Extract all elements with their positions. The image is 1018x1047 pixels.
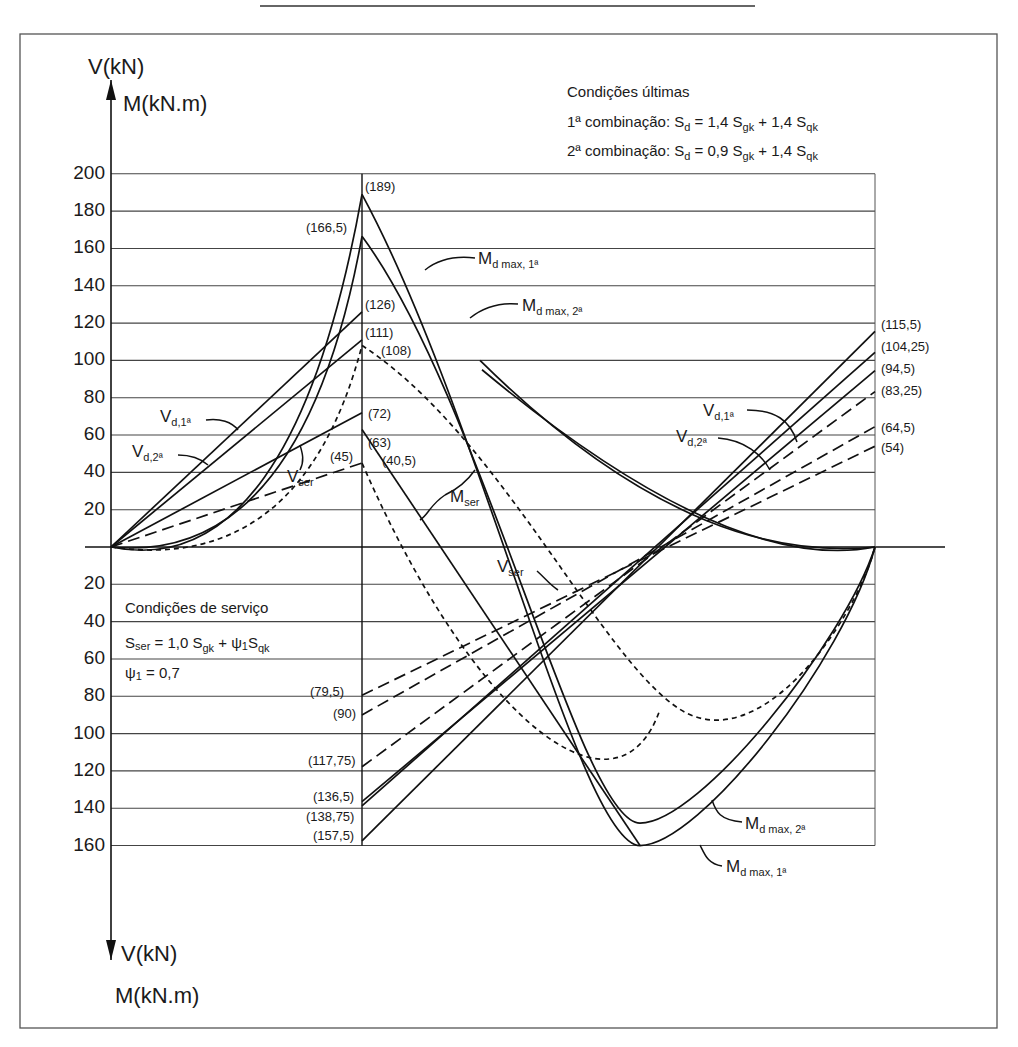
y-tick-neg-20: 20 [45, 573, 105, 592]
value-108: (108) [381, 344, 411, 357]
y-tick-pos-60: 60 [45, 424, 105, 443]
y-tick-neg-160: 160 [45, 835, 105, 854]
y-tick-neg-140: 140 [45, 797, 105, 816]
label-vser-right: Vser [497, 558, 524, 578]
y-tick-pos-120: 120 [45, 312, 105, 331]
y-axis-label-m-bottom: M(kN.m) [115, 985, 199, 1007]
value-111: (111) [365, 326, 393, 339]
value-136-5: (136,5) [313, 790, 354, 803]
value-63: (63) [368, 436, 391, 449]
label-md-max-1-bottom: Md max, 1ª [726, 858, 786, 878]
value-45: (45) [330, 450, 353, 463]
value-126: (126) [365, 298, 395, 311]
value-90: (90) [333, 707, 356, 720]
curves [111, 194, 875, 845]
value-117-75: (117,75) [308, 754, 355, 767]
combination-1-formula: 1ª combinação: Sd = 1,4 Sgk + 1,4 Sqk [567, 114, 818, 133]
value-54: (54) [881, 441, 904, 454]
chart-canvas [0, 0, 1018, 1047]
y-tick-pos-80: 80 [45, 387, 105, 406]
y-axis-label-m-top: M(kN.m) [123, 93, 207, 115]
value-104-25: (104,25) [881, 340, 929, 353]
y-axis-label-v-bottom: V(kN) [121, 943, 177, 965]
label-md-max-2-bottom: Md max, 2ª [745, 815, 805, 835]
ultimate-conditions-title: Condições últimas [567, 84, 690, 99]
label-vd2-right: Vd,2ª [676, 428, 707, 448]
label-md-max-2-top: Md max, 2ª [522, 297, 582, 317]
value-72: (72) [368, 407, 391, 420]
label-vd1-left: Vd,1ª [160, 408, 191, 428]
service-conditions-title: Condições de serviço [125, 600, 268, 615]
y-axis-label-v-top: V(kN) [88, 56, 144, 78]
value-94-5: (94,5) [881, 362, 915, 375]
service-formula: Sser = 1,0 Sgk + ψ1Sqk [125, 635, 270, 654]
y-tick-neg-40: 40 [45, 611, 105, 630]
psi-value: ψ1 = 0,7 [125, 665, 180, 682]
y-tick-neg-120: 120 [45, 760, 105, 779]
y-tick-pos-160: 160 [45, 237, 105, 256]
y-tick-neg-60: 60 [45, 648, 105, 667]
value-83-25: (83,25) [881, 384, 922, 397]
combination-2-formula: 2ª combinação: Sd = 0,9 Sgk + 1,4 Sqk [567, 143, 818, 162]
value-166-5: (166,5) [306, 221, 347, 234]
label-vd2-left: Vd,2ª [132, 443, 163, 463]
y-tick-pos-100: 100 [45, 349, 105, 368]
y-tick-pos-140: 140 [45, 275, 105, 294]
value-79-5: (79,5) [310, 685, 344, 698]
value-138-75: (138,75) [306, 810, 354, 823]
gridlines [85, 80, 945, 960]
label-vser-left: Vser [287, 468, 314, 488]
y-tick-pos-180: 180 [45, 200, 105, 219]
value-157-5: (157,5) [313, 829, 354, 842]
y-tick-neg-80: 80 [45, 685, 105, 704]
y-tick-neg-100: 100 [45, 723, 105, 742]
label-vd1-right: Vd,1ª [703, 402, 734, 422]
label-mser: Mser [450, 488, 479, 508]
y-tick-pos-200: 200 [45, 163, 105, 182]
value-40-5: (40,5) [382, 454, 416, 467]
label-arrows [178, 257, 797, 866]
label-md-max-1-top: Md max, 1ª [478, 250, 538, 270]
value-115-5: (115,5) [881, 318, 921, 331]
value-64-5: (64,5) [881, 421, 915, 434]
y-tick-pos-40: 40 [45, 461, 105, 480]
y-tick-pos-20: 20 [45, 499, 105, 518]
value-189: (189) [365, 180, 395, 193]
